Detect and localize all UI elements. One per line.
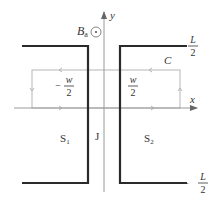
svg-text:L: L xyxy=(189,34,196,45)
contour-label: C xyxy=(164,54,172,66)
tick-top-l-half: L 2 xyxy=(188,34,198,58)
junction-label: J xyxy=(95,130,100,142)
contour-c xyxy=(30,68,182,110)
region-s2-label: S2 xyxy=(144,132,154,146)
tick-right-w-half: w 2 xyxy=(128,74,138,98)
x-axis-label: x xyxy=(189,93,195,105)
y-axis-label: y xyxy=(109,9,115,21)
region-s1-label: S1 xyxy=(60,132,70,146)
svg-text:w: w xyxy=(66,74,73,85)
svg-text:2: 2 xyxy=(191,47,196,58)
superconductor-left xyxy=(22,46,88,183)
tick-left-w-half: − w 2 xyxy=(55,74,74,98)
svg-text:2: 2 xyxy=(131,87,136,98)
superconductor-right xyxy=(120,46,187,183)
svg-text:2: 2 xyxy=(67,87,72,98)
field-out-of-page-icon xyxy=(91,27,101,37)
junction-diagram: Ba y x C L 2 − L 2 − w 2 w 2 S1 J S2 xyxy=(0,0,217,199)
svg-text:w: w xyxy=(130,74,137,85)
tick-bottom-l-half: − L 2 xyxy=(183,171,208,195)
svg-text:−: − xyxy=(55,80,61,91)
svg-text:−: − xyxy=(183,178,189,189)
svg-text:2: 2 xyxy=(201,184,206,195)
field-label: Ba xyxy=(77,24,88,39)
svg-text:L: L xyxy=(199,171,206,182)
